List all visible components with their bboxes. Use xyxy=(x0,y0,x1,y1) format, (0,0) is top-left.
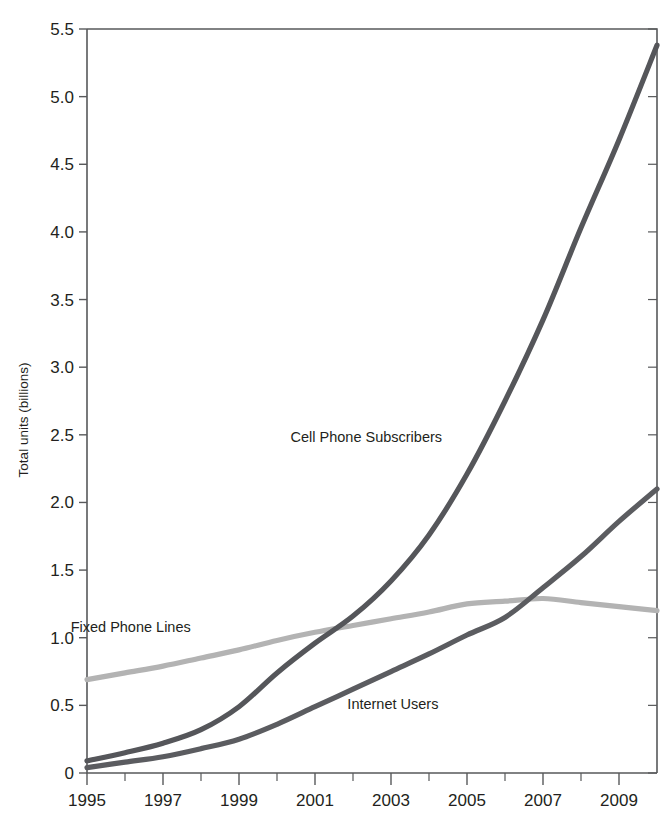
y-tick-label: 4.0 xyxy=(50,223,74,242)
series-label: Fixed Phone Lines xyxy=(71,619,191,635)
y-tick-label: 5.5 xyxy=(50,20,74,39)
y-tick-labels-group: 00.51.01.52.02.53.03.54.04.55.05.5 xyxy=(50,20,74,783)
x-tick-label: 2001 xyxy=(296,791,334,810)
series-line xyxy=(87,598,657,679)
x-tick-label: 2005 xyxy=(448,791,486,810)
line-chart: 00.51.01.52.02.53.03.54.04.55.05.5 19951… xyxy=(0,0,667,825)
series-line xyxy=(87,45,657,761)
y-tick-label: 0.5 xyxy=(50,696,74,715)
x-tick-label: 2007 xyxy=(524,791,562,810)
series-label: Cell Phone Subscribers xyxy=(291,429,443,445)
y-tick-label: 1.5 xyxy=(50,561,74,580)
y-tick-label: 2.0 xyxy=(50,493,74,512)
x-tick-labels-group: 19951997199920012003200520072009 xyxy=(68,791,638,810)
x-tick-label: 2009 xyxy=(600,791,638,810)
data-series-group xyxy=(87,45,657,767)
chart-frame xyxy=(87,29,657,773)
x-tick-label: 1997 xyxy=(144,791,182,810)
y-tick-label: 0 xyxy=(65,764,74,783)
series-annotations-group: Cell Phone SubscribersFixed Phone LinesI… xyxy=(71,429,442,713)
chart-container: 00.51.01.52.02.53.03.54.04.55.05.5 19951… xyxy=(0,0,667,825)
tick-marks-group xyxy=(79,29,657,785)
y-tick-label: 5.0 xyxy=(50,88,74,107)
chart-axes xyxy=(87,29,657,773)
y-tick-label: 3.5 xyxy=(50,291,74,310)
y-tick-label: 4.5 xyxy=(50,155,74,174)
x-tick-label: 1995 xyxy=(68,791,106,810)
axis-group xyxy=(87,29,657,773)
y-tick-label: 3.0 xyxy=(50,358,74,377)
x-tick-label: 2003 xyxy=(372,791,410,810)
y-tick-label: 2.5 xyxy=(50,426,74,445)
series-label: Internet Users xyxy=(347,696,438,712)
y-axis-title: Total units (billions) xyxy=(16,363,31,478)
x-tick-label: 1999 xyxy=(220,791,258,810)
